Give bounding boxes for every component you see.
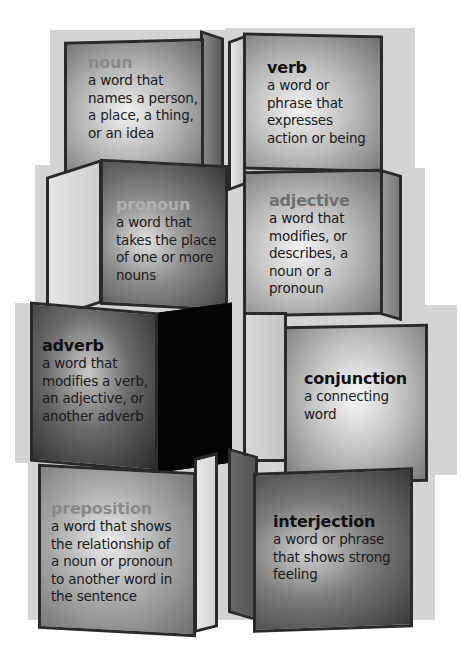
block-label: preposition a word that shows the relati…	[51, 500, 173, 606]
block-label: adjective a word that modifies, or descr…	[269, 192, 350, 298]
definition-noun: a word that names a person, a place, a t…	[88, 72, 198, 142]
term-pronoun: pronoun	[116, 196, 216, 214]
block-side	[194, 452, 218, 633]
definition-conjunction: a connecting word	[304, 388, 407, 423]
block-label: adverb a word that modifies a verb, an a…	[42, 337, 148, 425]
definition-pronoun: a word that takes the place of one or mo…	[116, 214, 216, 284]
definition-adjective: a word that modifies, or describes, a no…	[269, 210, 350, 298]
block-label: verb a word or phrase that expresses act…	[267, 59, 366, 147]
definition-preposition: a word that shows the relationship of a …	[51, 518, 173, 606]
definition-adverb: a word that modifies a verb, an adjectiv…	[42, 355, 148, 425]
term-adverb: adverb	[42, 337, 148, 355]
block-label: pronoun a word that takes the place of o…	[116, 196, 216, 284]
term-conjunction: conjunction	[304, 370, 407, 388]
block-label: conjunction a connecting word	[304, 370, 407, 423]
term-preposition: preposition	[51, 500, 173, 518]
term-adjective: adjective	[269, 192, 350, 210]
term-interjection: interjection	[273, 513, 391, 531]
definition-verb: a word or phrase that expresses action o…	[267, 77, 366, 147]
block-label: interjection a word or phrase that shows…	[273, 513, 391, 584]
block-side	[380, 169, 402, 321]
term-noun: noun	[88, 54, 198, 72]
block-side	[152, 302, 232, 473]
block-side	[243, 312, 287, 462]
term-verb: verb	[267, 59, 366, 77]
block-side	[46, 159, 102, 321]
definition-interjection: a word or phrase that shows strong feeli…	[273, 531, 391, 584]
block-label: noun a word that names a person, a place…	[88, 54, 198, 142]
